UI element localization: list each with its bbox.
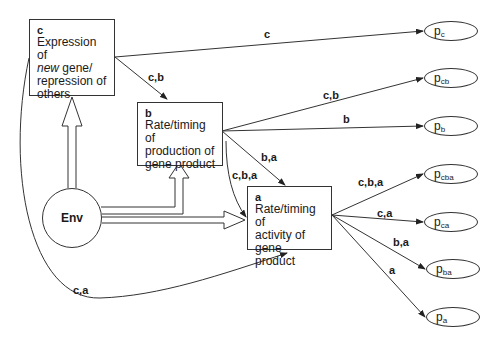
edge-a-pa xyxy=(332,215,425,317)
edge-b-pb xyxy=(222,126,423,131)
label-c-to-b: c,b xyxy=(148,72,164,83)
outcome-p-c: pc xyxy=(424,21,478,41)
outcome-p-ca: pca xyxy=(424,212,478,232)
outcome-p-b: pb xyxy=(424,116,478,136)
label-ca-curve: c,a xyxy=(73,285,88,296)
label-a-to-pca: c,a xyxy=(377,208,392,219)
label-b-to-pcb: c,b xyxy=(323,90,339,101)
label-b-to-a: b,a xyxy=(261,152,277,163)
node-a-activity: a Rate/timing of activity of gene produc… xyxy=(247,186,332,250)
outcome-p-ba: pba xyxy=(426,259,480,279)
node-b-production: b Rate/timing of production of gene prod… xyxy=(137,102,223,166)
label-a-to-pba: b,a xyxy=(393,237,409,248)
label-a-to-pcba: c,b,a xyxy=(358,177,383,188)
edge-b-pcb xyxy=(222,78,423,131)
outcome-p-cb: pcb xyxy=(424,68,478,88)
node-c-gene-expression: c Expression of new gene/ repression of … xyxy=(29,19,115,96)
edge-a-pba xyxy=(332,215,425,269)
label-c-to-pc: c xyxy=(264,29,270,40)
label-b-to-pb: b xyxy=(343,114,350,125)
env-arrow-to-c xyxy=(62,97,82,188)
label-a-to-pa: a xyxy=(389,265,395,276)
label-cba-curve: c,b,a xyxy=(232,170,257,181)
env-node: Env xyxy=(42,188,102,248)
outcome-p-a: pa xyxy=(426,307,480,327)
outcome-p-cba: pcba xyxy=(424,164,478,184)
